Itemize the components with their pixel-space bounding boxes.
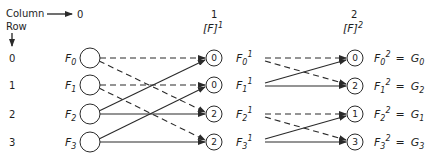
stage1-label-f3: F31 [236,134,253,151]
column-matrix-2: [F]2 [343,21,363,35]
row-axis-label: Row [6,21,27,32]
node-c1-r3-value: 2 [211,137,217,147]
column-matrix-1: [F]1 [203,21,223,35]
input-label-f2: F2 [65,108,76,123]
stage2-edges [265,58,346,142]
row-index-0: 0 [9,53,15,64]
edge-s1-0-2 [99,61,205,112]
column1: 0 0 2 2 F01 F11 F21 F31 [206,50,253,151]
node-c0-r0 [80,48,100,68]
column2: 0 2 1 3 F02=G0 F12=G2 F22=G1 F32=G3 [347,50,424,151]
node-c2-r2-value: 1 [352,109,358,119]
stage1-label-f2: F21 [236,106,253,123]
node-c1-r0-value: 0 [211,53,217,63]
column-index-0: 0 [77,9,83,20]
node-c2-r3-value: 3 [352,137,358,147]
edge-s1-3-1 [99,87,205,139]
node-c0-r3 [80,132,100,152]
stage1-edges [99,58,205,142]
node-c2-r0-value: 0 [352,53,358,63]
output-label-row2: F22=G1 [374,106,424,123]
output-label-row3: F32=G3 [374,134,424,151]
row-index-3: 3 [9,137,15,148]
input-label-f3: F3 [65,136,76,151]
node-c1-r1-value: 0 [211,80,217,90]
edge-s2-3-2 [265,116,346,139]
column-axis-label: Column [6,8,44,19]
edge-s2-2-3 [265,117,346,140]
output-label-row1: F12=G2 [374,78,424,95]
fft-signal-flow-diagram: Column Row 0 1 [F]1 2 [F]2 0 1 2 3 F0 F1 [0,0,436,161]
node-c1-r2-value: 2 [211,109,217,119]
output-label-row0: F02=G0 [374,50,424,67]
node-c2-r1-value: 2 [352,81,358,91]
node-c0-r1 [80,75,100,95]
input-label-f1: F1 [65,79,76,94]
stage1-label-f0: F01 [236,50,253,67]
row-index-2: 2 [9,109,15,120]
column0: F0 F1 F2 F3 [65,48,100,152]
stage1-label-f1: F11 [236,77,253,94]
input-label-f0: F0 [65,52,76,67]
node-c0-r2 [80,104,100,124]
edge-s2-0-1 [265,61,346,84]
edge-s2-1-0 [265,60,346,83]
column-index-1: 1 [211,9,217,20]
row-index-1: 1 [9,80,15,91]
column-index-2: 2 [351,9,357,20]
